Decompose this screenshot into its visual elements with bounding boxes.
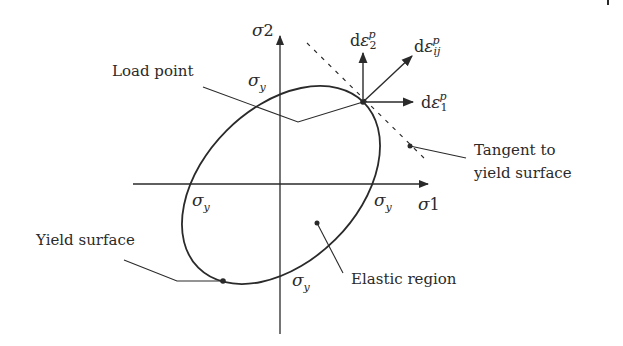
yield-surface-leader — [124, 260, 223, 281]
yield-surface-label: Yield surface — [35, 231, 135, 249]
tangent-label-line1: Tangent to — [474, 141, 555, 159]
sigma2-label: σ2 — [252, 20, 274, 40]
sigma-y-bottom-label: σy — [292, 270, 311, 294]
tangent-leader — [410, 146, 466, 158]
sigma-y-left-label: σy — [192, 190, 211, 214]
tangent-label-line2: yield surface — [473, 164, 572, 182]
sigma1-label: σ1 — [418, 194, 440, 214]
d-eps-ij-arrow — [363, 56, 412, 102]
load-point-label: Load point — [112, 62, 193, 80]
elastic-region-label: Elastic region — [351, 270, 457, 288]
d-eps-ij-label: dεpij — [414, 34, 441, 58]
sigma-y-right-label: σy — [374, 190, 393, 214]
yield-surface-diagram: σ2 σ1 σy σy σy σy dεp2 dεpij dεp1 Load p… — [0, 0, 623, 346]
corner-mark — [607, 0, 609, 5]
sigma-y-top-label: σy — [248, 70, 267, 94]
load-point-leader — [203, 87, 363, 122]
elastic-region-leader — [317, 223, 343, 273]
d-eps-2-label: dεp2 — [350, 28, 376, 52]
d-eps-1-label: dεp1 — [421, 90, 447, 114]
